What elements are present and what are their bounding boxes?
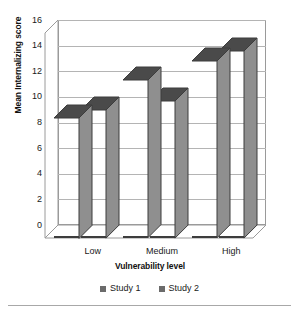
y-tick-label: 10 — [22, 92, 42, 101]
legend-item-study-1[interactable]: Study 1 — [100, 284, 141, 293]
bar-3d-faces — [123, 67, 161, 238]
y-tick-label: 8 — [22, 118, 42, 127]
x-axis-tick-labels: LowMediumHigh — [45, 246, 280, 260]
y-tick-label: 0 — [22, 221, 42, 230]
y-tick-label: 4 — [22, 169, 42, 178]
x-tick-label-high: High — [191, 246, 271, 256]
x-tick-label-medium: Medium — [122, 246, 202, 256]
bar-low-study-1 — [54, 118, 79, 238]
bars-layer — [45, 20, 280, 242]
bar-3d-faces — [54, 105, 92, 238]
y-tick-label: 2 — [22, 195, 42, 204]
y-tick-label: 12 — [22, 67, 42, 76]
bar-3d-faces — [192, 48, 230, 238]
legend-label: Study 2 — [169, 284, 200, 293]
legend-swatch-icon — [159, 286, 165, 292]
bar-high-study-1 — [192, 61, 217, 238]
y-tick-label: 6 — [22, 144, 42, 153]
x-tick-label-low: Low — [53, 246, 133, 256]
y-tick-label: 14 — [22, 41, 42, 50]
bar-chart: Mean Internalizing score 0246810121416 L… — [0, 0, 299, 312]
x-axis-title: Vulnerability level — [45, 261, 255, 271]
plot-area — [45, 20, 280, 242]
legend-swatch-icon — [100, 286, 106, 292]
y-tick-label: 16 — [22, 16, 42, 25]
y-axis-tick-labels: 0246810121416 — [20, 0, 42, 312]
chart-legend: Study 1Study 2 — [0, 284, 299, 293]
legend-item-study-2[interactable]: Study 2 — [159, 284, 200, 293]
legend-label: Study 1 — [110, 284, 141, 293]
bar-medium-study-1 — [123, 80, 148, 238]
bottom-divider — [8, 305, 291, 306]
